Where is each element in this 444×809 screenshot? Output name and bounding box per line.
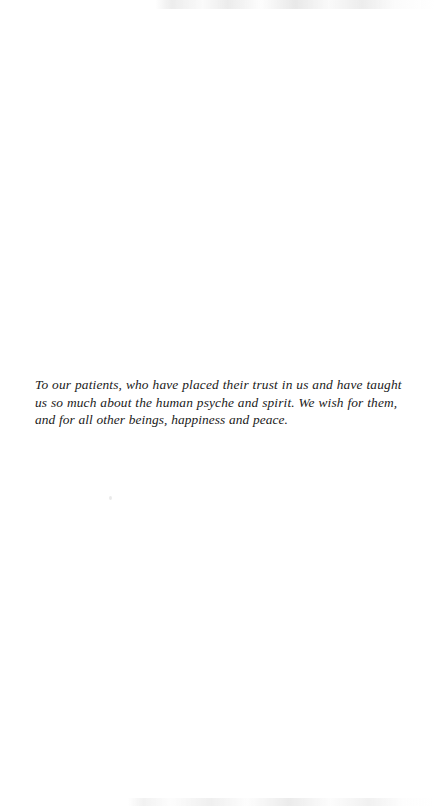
scan-artifact-bottom-edge <box>128 798 433 806</box>
dedication-line-2: us so much about the human psyche and sp… <box>35 394 417 412</box>
scan-artifact-dust-speck <box>109 496 112 500</box>
scanned-page: To our patients, who have placed their t… <box>0 0 444 809</box>
dedication-line-1: To our patients, who have placed their t… <box>35 376 417 394</box>
scan-artifact-top-edge <box>155 0 435 9</box>
dedication-text-block: To our patients, who have placed their t… <box>35 376 417 429</box>
dedication-line-3: and for all other beings, happiness and … <box>35 411 417 429</box>
